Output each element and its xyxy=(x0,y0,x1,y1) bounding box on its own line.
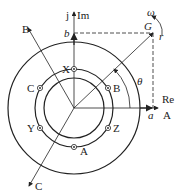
b-axis-label: B xyxy=(22,23,29,35)
g-label: G xyxy=(144,20,152,32)
im-label: Im xyxy=(77,9,90,21)
r-label: r xyxy=(159,30,164,42)
coil-x xyxy=(71,66,76,71)
a-projection-label: a xyxy=(148,109,154,121)
space-vector-diagram: j Im b B G ω r θ Re a A C X B C Z Y A xyxy=(0,0,179,193)
omega-label: ω xyxy=(147,6,155,18)
coil-z xyxy=(105,125,110,130)
coil-z-label: Z xyxy=(113,122,120,134)
c-axis-label: C xyxy=(35,180,42,192)
coil-a xyxy=(71,144,76,149)
re-label: Re xyxy=(162,93,174,105)
coil-a-label: A xyxy=(80,145,88,157)
coil-x-label: X xyxy=(62,63,70,75)
coil-y xyxy=(37,125,42,130)
a-axis-label: A xyxy=(163,109,171,121)
coil-c xyxy=(37,85,42,90)
coil-c-label: C xyxy=(27,82,34,94)
coil-y-label: Y xyxy=(27,122,35,134)
coil-b xyxy=(105,85,110,90)
b-projection-label: b xyxy=(64,27,70,39)
j-label: j xyxy=(65,9,69,21)
coil-b-label: B xyxy=(113,82,120,94)
theta-label: θ xyxy=(137,75,143,87)
